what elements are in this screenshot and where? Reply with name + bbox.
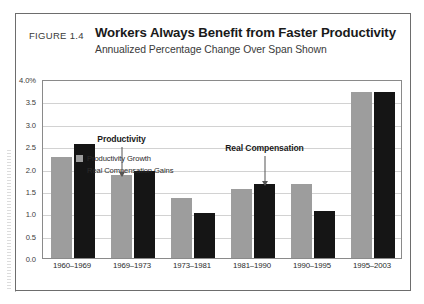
legend-item-productivity-growth: Productivity Growth [76, 153, 173, 164]
x-axis-category-label: 1981–1990 [233, 261, 271, 270]
bar [291, 184, 312, 258]
page-edge-artifact [7, 150, 11, 290]
y-axis-tick-labels: 4.0%3.53.02.52.01.51.00.50.0 [16, 80, 40, 259]
bar [374, 92, 395, 258]
y-axis-tick-label: 3.5 [26, 98, 36, 107]
chart-legend: Productivity Growth Real Compensation Ga… [76, 153, 173, 177]
bar [231, 189, 252, 258]
y-axis-tick-label: 4.0% [19, 76, 36, 85]
bar [254, 184, 275, 258]
annotation-arrow-shaft-icon [121, 147, 122, 172]
x-axis-category-label: 1960–1969 [53, 261, 91, 270]
annotation-arrow-head-icon [262, 181, 268, 186]
bar [51, 157, 72, 258]
bar-group [167, 81, 219, 258]
figure-header: FIGURE 1.4 Workers Always Benefit from F… [16, 14, 412, 66]
bar [111, 175, 132, 258]
legend-item-label: Productivity Growth [87, 154, 151, 163]
y-axis-tick-label: 0.0 [26, 255, 36, 264]
figure-page: FIGURE 1.4 Workers Always Benefit from F… [0, 0, 424, 304]
legend-swatch-icon [76, 167, 83, 174]
y-axis-tick-label: 2.0 [26, 165, 36, 174]
bar [134, 171, 155, 258]
figure-subtitle: Annualized Percentage Change Over Span S… [95, 44, 327, 55]
bar-group [227, 81, 279, 258]
bar [314, 211, 335, 258]
figure-number-label: FIGURE 1.4 [29, 30, 84, 41]
figure-title: Workers Always Benefit from Faster Produ… [95, 25, 396, 40]
x-axis-category-label: 1969–1973 [113, 261, 151, 270]
bar [351, 92, 372, 258]
y-axis-tick-label: 2.5 [26, 143, 36, 152]
legend-item-label: Real Compensation Gains [87, 166, 173, 175]
legend-swatch-icon [76, 155, 83, 162]
figure-card: FIGURE 1.4 Workers Always Benefit from F… [15, 13, 411, 291]
bar [194, 213, 215, 258]
bar-group [287, 81, 339, 258]
y-axis-tick-label: 0.5 [26, 232, 36, 241]
x-axis-category-label: 1973–1981 [173, 261, 211, 270]
x-axis-category-label: 1995–2003 [353, 261, 391, 270]
plot-area: Productivity Growth Real Compensation Ga… [42, 80, 402, 259]
y-axis-tick-label: 3.0 [26, 120, 36, 129]
annotation-arrow-head-icon [119, 172, 125, 177]
annotation-label: Productivity [97, 134, 145, 144]
x-axis-category-label: 1990–1995 [293, 261, 331, 270]
y-axis-tick-label: 1.0 [26, 210, 36, 219]
legend-item-real-compensation-gains: Real Compensation Gains [76, 165, 173, 176]
bar [171, 198, 192, 258]
bar-group [347, 81, 399, 258]
x-axis-category-labels: 1960–19691969–19731973–19811981–19901990… [42, 261, 402, 275]
annotation-label: Real Compensation [225, 143, 304, 153]
y-axis-tick-label: 1.5 [26, 187, 36, 196]
annotation-arrow-shaft-icon [264, 156, 265, 181]
